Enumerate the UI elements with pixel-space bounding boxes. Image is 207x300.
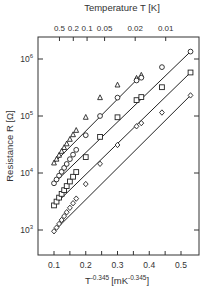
data-point-diamond	[67, 205, 72, 210]
x-axis-label: T-0.345[mK-0.345]	[85, 274, 149, 286]
data-point-circle	[67, 157, 72, 162]
data-point-diamond	[160, 110, 165, 115]
data-point-circle	[160, 65, 165, 70]
resistance-vs-temperature-chart: Temperature T [K] 0.50.20.10.050.020.01 …	[0, 0, 207, 300]
data-point-square	[139, 95, 144, 100]
data-point-triangle	[83, 114, 88, 119]
data-point-circle	[139, 75, 144, 80]
top-tick-label: 0.1	[82, 24, 94, 33]
top-tick-label: 0.2	[68, 24, 80, 33]
y-axis-tick-labels: 103104105106	[20, 53, 33, 235]
data-point-square	[188, 70, 193, 75]
data-point-circle	[98, 114, 103, 119]
data-series	[52, 49, 193, 234]
top-tick-label: 0.5	[54, 24, 66, 33]
data-point-circle	[83, 133, 88, 138]
x-tick-label: 0.5	[175, 260, 187, 270]
data-point-diamond	[139, 120, 144, 125]
y-tick-label: 103	[20, 224, 33, 235]
top-axis-tick-labels: 0.50.20.10.050.020.01	[54, 24, 174, 33]
x-tick-label: 0.1	[48, 260, 60, 270]
top-tick-label: 0.02	[127, 24, 143, 33]
data-point-diamond	[74, 196, 79, 201]
data-point-square	[160, 85, 165, 90]
top-axis-title: Temperature T [K]	[84, 2, 160, 13]
data-point-triangle	[74, 128, 79, 133]
data-point-diamond	[71, 201, 76, 206]
y-tick-label: 106	[20, 53, 33, 64]
y-axis-label: Resistance R [Ω]	[4, 110, 15, 182]
data-point-circle	[64, 162, 69, 167]
data-point-square	[64, 184, 69, 189]
data-point-square	[74, 170, 79, 175]
top-tick-label: 0.05	[97, 24, 113, 33]
y-tick-label: 105	[20, 110, 33, 121]
data-point-circle	[71, 152, 76, 157]
data-point-square	[67, 179, 72, 184]
y-tick-label: 104	[20, 167, 33, 178]
data-point-square	[71, 174, 76, 179]
series-circle	[52, 49, 193, 186]
data-point-triangle	[115, 82, 120, 87]
data-point-diamond	[134, 124, 139, 129]
x-tick-label: 0.4	[143, 260, 155, 270]
series-diamond	[52, 93, 193, 234]
data-point-diamond	[115, 142, 120, 147]
data-point-circle	[74, 147, 79, 152]
top-tick-label: 0.01	[158, 24, 174, 33]
data-point-circle	[115, 95, 120, 100]
x-tick-label: 0.2	[80, 260, 92, 270]
data-point-triangle	[67, 137, 72, 142]
data-point-circle	[188, 49, 193, 54]
data-point-circle	[134, 78, 139, 83]
data-point-square	[98, 134, 103, 139]
data-point-square	[134, 98, 139, 103]
fit-line	[54, 72, 191, 205]
x-axis-tick-labels: 0.10.20.30.40.5	[48, 260, 187, 270]
data-point-triangle	[98, 95, 103, 100]
series-square	[52, 70, 193, 208]
x-tick-label: 0.3	[112, 260, 124, 270]
series-triangle	[52, 72, 144, 165]
data-point-square	[83, 155, 88, 160]
data-point-square	[115, 115, 120, 120]
data-point-diamond	[83, 181, 88, 186]
